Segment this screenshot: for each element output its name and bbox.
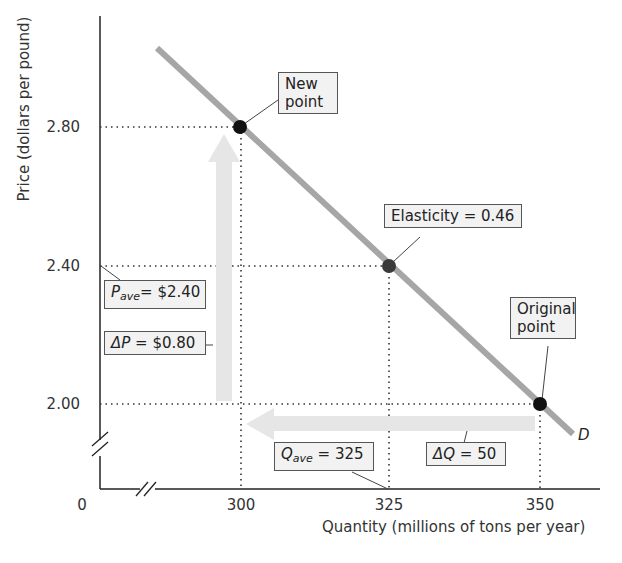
callout-line: point bbox=[517, 318, 569, 336]
new-point-marker bbox=[233, 120, 247, 134]
demand-curve-label: D bbox=[578, 426, 590, 444]
x-tick-325: 325 bbox=[375, 496, 404, 514]
y-tick-2-40: 2.40 bbox=[47, 257, 80, 275]
delta-p-arrow-icon bbox=[208, 134, 240, 401]
elasticity-point-marker bbox=[382, 259, 396, 273]
ave-subscript: ave bbox=[293, 452, 313, 465]
ave-subscript: ave bbox=[120, 290, 140, 303]
new-point-callout: New point bbox=[278, 72, 338, 114]
y-axis-label: Price (dollars per pound) bbox=[15, 9, 33, 209]
callout-line: point bbox=[285, 93, 331, 111]
x-tick-0: 0 bbox=[77, 496, 87, 514]
elasticity-callout: Elasticity = 0.46 bbox=[384, 204, 522, 228]
delta-q-arrow-icon bbox=[246, 408, 535, 440]
x-axis-label: Quantity (millions of tons per year) bbox=[322, 518, 585, 536]
delta-p-symbol: ΔP bbox=[111, 334, 130, 352]
delta-p-callout: ΔP = $0.80 bbox=[104, 331, 206, 355]
original-point-callout: Original point bbox=[510, 297, 576, 339]
p-symbol: P bbox=[111, 283, 120, 301]
y-tick-2-80: 2.80 bbox=[47, 118, 80, 136]
q-ave-value: = 325 bbox=[313, 445, 364, 463]
delta-p-value: = $0.80 bbox=[130, 334, 195, 352]
p-ave-value: = $2.40 bbox=[140, 283, 200, 301]
delta-q-callout: ΔQ = 50 bbox=[426, 442, 506, 466]
p-ave-callout: Pave= $2.40 bbox=[104, 280, 206, 309]
delta-q-symbol: ΔQ bbox=[433, 445, 455, 463]
callout-line: Original bbox=[517, 300, 569, 318]
q-symbol: Q bbox=[281, 445, 293, 463]
x-tick-350: 350 bbox=[526, 496, 555, 514]
delta-q-value: = 50 bbox=[455, 445, 496, 463]
original-point-marker bbox=[533, 397, 547, 411]
x-tick-300: 300 bbox=[227, 496, 256, 514]
q-ave-callout: Qave = 325 bbox=[274, 442, 374, 471]
callout-line: New bbox=[285, 75, 331, 93]
y-tick-2-00: 2.00 bbox=[47, 395, 80, 413]
